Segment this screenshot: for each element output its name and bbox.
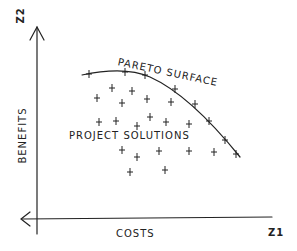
solution-point — [168, 98, 174, 106]
solution-point — [144, 95, 150, 103]
solution-point — [211, 148, 217, 156]
solution-point — [129, 87, 135, 95]
project-solutions-label: PROJECT SOLUTIONS — [69, 130, 190, 141]
solution-point — [156, 147, 162, 155]
x-axis-label: COSTS — [116, 228, 155, 239]
solution-point — [94, 94, 100, 102]
solution-point — [119, 99, 125, 107]
pareto-point — [172, 85, 178, 93]
pareto-diagram — [0, 0, 297, 251]
pareto-point — [86, 70, 92, 78]
solution-point — [186, 147, 192, 155]
solution-point — [134, 153, 140, 161]
solution-point — [109, 84, 115, 92]
solution-point — [186, 120, 192, 128]
pareto-point — [233, 150, 239, 158]
y-axis-name: Z2 — [15, 7, 26, 23]
solution-point — [119, 146, 125, 154]
x-axis-line — [22, 217, 272, 219]
solution-point — [162, 166, 168, 174]
solution-point — [127, 168, 133, 176]
solution-point — [163, 118, 169, 126]
solution-point — [134, 122, 140, 130]
x-axis-name: Z1 — [268, 227, 284, 238]
solution-point — [113, 117, 119, 125]
solution-point — [147, 113, 153, 121]
solution-point — [96, 118, 102, 126]
y-axis-label: BENEFITS — [17, 107, 28, 163]
